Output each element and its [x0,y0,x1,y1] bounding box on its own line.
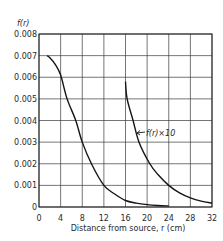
x-tick-label: 12 [99,214,109,223]
x-tick-label: 8 [80,214,85,223]
curve-annotation: f(r)×10 [137,129,175,138]
chart: 00.0010.0020.0030.0040.0050.0060.0070.00… [0,0,223,241]
x-tick-label: 4 [58,214,63,223]
y-tick-label: 0.007 [14,52,37,61]
x-tick-label: 28 [185,214,195,223]
y-tick-label: 0 [32,203,37,212]
x-tick-label: 20 [142,214,152,223]
x-tick-label: 0 [36,214,41,223]
x-tick-labels: 048121620242832 [36,214,217,223]
y-tick-label: 0.003 [14,138,37,147]
y-tick-label: 0.002 [14,160,37,169]
y-tick-label: 0.001 [14,181,37,190]
x-tick-label: 16 [120,214,130,223]
y-tick-label: 0.004 [14,117,37,126]
gridlines [39,34,212,207]
arrow-icon [137,131,145,136]
annotation-label: f(r)×10 [146,129,175,138]
y-tick-label: 0.006 [14,73,37,82]
y-tick-label: 0.005 [14,95,37,104]
x-tick-label: 32 [207,214,217,223]
y-tick-label: 0.008 [14,30,37,39]
y-tick-labels: 00.0010.0020.0030.0040.0050.0060.0070.00… [14,30,37,212]
data-curves [47,56,212,206]
x-axis-label: Distance from source, r (cm) [71,224,186,233]
x-tick-label: 24 [164,214,174,223]
y-axis-label: f(r) [17,19,29,28]
